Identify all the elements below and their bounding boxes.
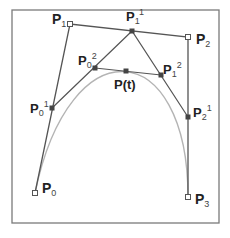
control-point-p1[interactable]: [68, 22, 73, 27]
label-pt: P(t): [114, 77, 136, 92]
point-p0-1: [50, 106, 55, 111]
point-p0-2: [93, 66, 98, 71]
point-p1-1: [130, 29, 135, 34]
label-p3: P3: [195, 191, 209, 209]
control-point-p0[interactable]: [33, 191, 38, 196]
bezier-curve: [35, 72, 188, 197]
label-p2: P2: [196, 31, 210, 49]
control-point-p2[interactable]: [186, 35, 191, 40]
diagram-canvas: P1 P2 P0 P3 P01 P11 P21 P02 P12 P(t): [0, 0, 230, 238]
label-p1: P1: [52, 11, 66, 29]
label-p0: P0: [42, 180, 56, 198]
control-point-p3[interactable]: [186, 195, 191, 200]
label-p1-2: P12: [163, 60, 182, 79]
point-pt: [124, 69, 129, 74]
point-p2-1: [186, 115, 191, 120]
label-p0-1: P01: [30, 99, 49, 118]
bezier-diagram: P1 P2 P0 P3 P01 P11 P21 P02 P12 P(t): [0, 0, 230, 238]
label-p2-1: P21: [193, 103, 212, 122]
